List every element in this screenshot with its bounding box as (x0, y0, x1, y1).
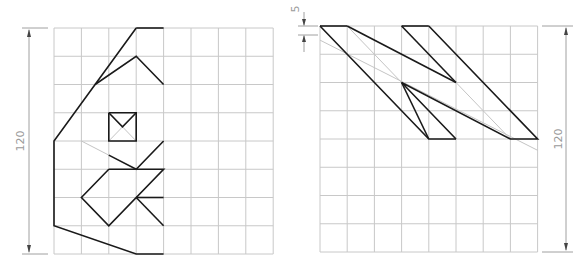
arrow-up-icon (302, 35, 306, 42)
right-dimension-label: 120 (552, 129, 565, 150)
offset-dimension: 5 (289, 6, 318, 53)
construction-line (109, 127, 136, 141)
right-dimension: 120 (542, 26, 573, 252)
arrow-down-icon (302, 19, 306, 26)
left-dimension: 120 (14, 28, 48, 254)
left-dimension-label: 120 (14, 131, 27, 152)
construction-line (81, 141, 108, 155)
figure-edge (136, 198, 163, 226)
arrow-up-icon (27, 29, 31, 37)
arrow-down-icon (564, 243, 568, 251)
arrow-up-icon (564, 27, 568, 35)
figure-edge (109, 113, 136, 127)
arrow-down-icon (27, 245, 31, 253)
drawing-canvas: 120 120 5 (0, 0, 579, 268)
offset-dimension-label: 5 (289, 6, 302, 13)
